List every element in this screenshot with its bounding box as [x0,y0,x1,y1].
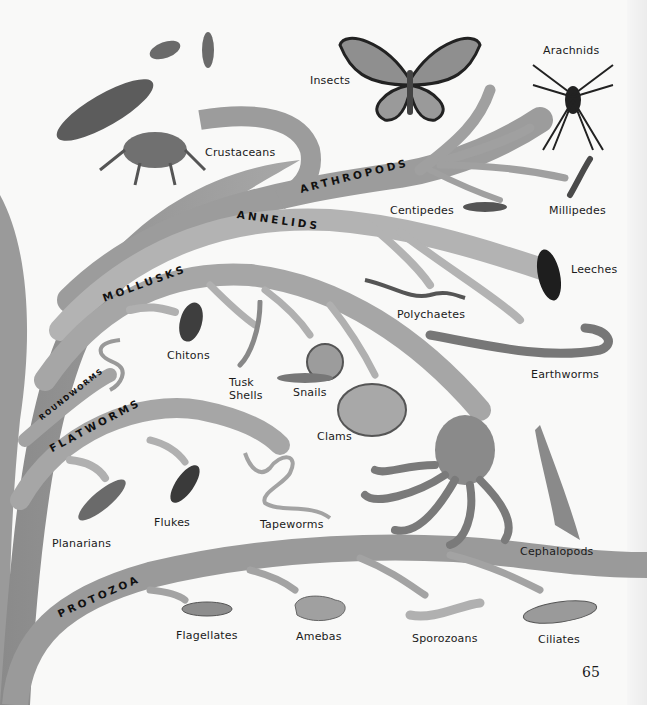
polychaete-illustration [360,270,470,310]
label-clams: Clams [317,430,352,443]
label-flukes: Flukes [154,516,190,529]
lobster-crab-illustration [40,25,220,195]
label-tapeworms: Tapeworms [260,518,324,531]
ameba-illustration [285,590,355,625]
label-tusk-shells-line1: Tusk [229,376,254,389]
cephalopods-illustration [355,405,585,550]
ciliate-illustration [520,597,600,627]
sporozoan-illustration [405,595,485,625]
fluke-illustration [160,457,210,512]
label-leeches: Leeches [571,263,617,276]
label-centipedes: Centipedes [390,204,454,217]
label-arachnids: Arachnids [543,44,599,57]
label-polychaetes: Polychaetes [397,308,465,321]
label-planarians: Planarians [52,537,111,550]
label-crustaceans: Crustaceans [205,146,275,159]
butterfly-illustration [335,30,485,125]
branch-sporozoans [360,558,425,595]
label-cephalopods: Cephalopods [520,545,594,558]
label-insects: Insects [310,74,350,87]
planarian-illustration [70,470,135,530]
label-sporozoans: Sporozoans [412,632,478,645]
tusk-shell-illustration [235,300,265,370]
centipede-illustration [460,195,510,220]
chiton-illustration [176,300,206,345]
leech-illustration [532,245,567,305]
label-ciliates: Ciliates [538,633,580,646]
branch-amebas [250,570,295,590]
millipede-illustration [565,155,595,200]
label-earthworms: Earthworms [531,368,599,381]
label-snails: Snails [293,386,327,399]
label-amebas: Amebas [296,630,342,643]
label-millipedes: Millipedes [549,204,606,217]
flagellate-illustration [180,598,235,620]
branch-chitons [130,307,175,312]
label-flagellates: Flagellates [176,629,238,642]
tapeworm-illustration [240,448,340,523]
page-number: 65 [582,664,600,680]
earthworm-illustration [425,320,615,365]
book-page: ARTHROPODS ANNELIDS MOLLUSKS ROUNDWORMS … [0,0,647,705]
snail-illustration [275,340,350,385]
label-chitons: Chitons [167,349,210,362]
spider-illustration [528,55,618,155]
label-tusk-shells-line2: Shells [229,389,263,402]
